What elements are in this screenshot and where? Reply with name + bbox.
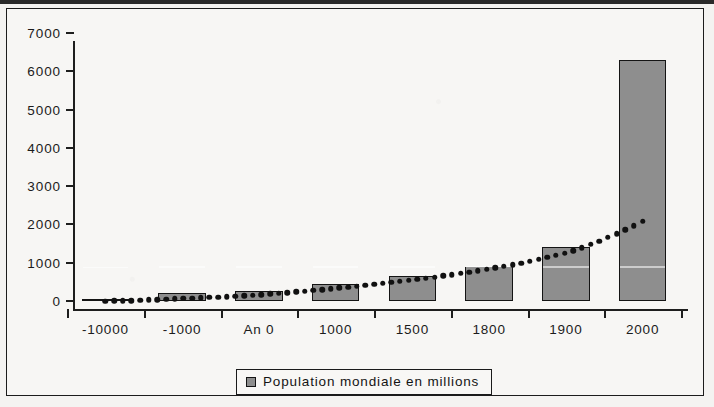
trendline-dot — [406, 278, 412, 284]
x-axis-tick-label: -10000 — [82, 322, 129, 337]
trendline-dot — [536, 257, 542, 263]
x-axis-tick — [451, 309, 453, 318]
chart-legend: Population mondiale en millions — [236, 369, 492, 395]
y-axis-tick — [66, 70, 74, 72]
trendline-dot — [510, 262, 516, 268]
trendline-dot — [224, 294, 230, 300]
trendline-dot — [181, 296, 187, 302]
trendline-dot — [207, 295, 213, 301]
y-axis-tick-label: 7000 — [3, 26, 61, 41]
y-axis-tick — [66, 262, 74, 264]
y-axis-tick-label: 2000 — [3, 217, 61, 232]
trendline-dot — [605, 235, 611, 241]
trendline-dot — [319, 287, 325, 293]
trendline-dot — [155, 297, 161, 303]
plot-area — [73, 41, 687, 309]
trendline-dot — [519, 260, 525, 266]
x-axis-tick-label: 1000 — [319, 322, 352, 337]
x-axis-line — [73, 309, 688, 311]
trendline-dot — [337, 285, 343, 291]
trendline-dot — [129, 298, 135, 304]
trendline-dot — [562, 251, 568, 257]
x-axis-tick-label: 1900 — [549, 322, 582, 337]
trendline-dot — [111, 298, 117, 304]
trendline-dot — [458, 271, 464, 277]
legend-swatch-icon — [246, 377, 256, 387]
trendline-dot — [198, 295, 204, 301]
page-top-rule — [0, 0, 714, 4]
trendline-dot — [371, 282, 377, 288]
y-axis-tick — [66, 300, 74, 302]
trendline-dot — [423, 275, 429, 281]
trendline-dot — [293, 289, 299, 295]
trendline-dot — [241, 293, 247, 299]
trendline-dot — [103, 298, 109, 304]
bar — [619, 60, 667, 301]
trendline-dot — [545, 255, 551, 261]
trendline-dot — [527, 259, 533, 265]
trendline-dot — [397, 279, 403, 285]
trendline-dot — [259, 292, 265, 298]
x-axis-tick — [604, 309, 606, 318]
trendline-dot — [631, 223, 637, 229]
trendline-dot — [363, 283, 369, 289]
x-axis-tick — [374, 309, 376, 318]
y-axis-tick-label: 5000 — [3, 102, 61, 117]
trendline-dot — [345, 284, 351, 290]
trendline-dot — [328, 286, 334, 292]
trendline-dot — [588, 242, 594, 248]
trendline-dot — [311, 288, 317, 294]
y-axis-tick — [66, 109, 74, 111]
trendline-dot — [467, 269, 473, 275]
chart-frame: 01000200030004000500060007000 -10000-100… — [6, 8, 704, 396]
y-axis-tick-label: 1000 — [3, 255, 61, 270]
trendline-dot — [475, 268, 481, 274]
bar — [312, 284, 360, 301]
trendline-dot — [640, 218, 646, 224]
y-axis-tick-label: 3000 — [3, 179, 61, 194]
x-axis-tick — [528, 309, 530, 318]
x-axis-tick — [221, 309, 223, 318]
x-axis-tick-label: -1000 — [163, 322, 202, 337]
x-axis-tick-label: An 0 — [243, 322, 274, 337]
y-axis-tick-label: 0 — [3, 294, 61, 309]
trendline-dot — [250, 292, 256, 298]
y-axis-tick — [66, 147, 74, 149]
trendline-dot — [449, 272, 455, 278]
trendline-dot — [501, 264, 507, 270]
trendline-dot — [597, 238, 603, 244]
trendline-dot — [614, 231, 620, 237]
trendline-dot — [189, 295, 195, 301]
x-axis-tick-label: 1800 — [473, 322, 506, 337]
y-axis-line — [73, 41, 75, 311]
trendline-dot — [276, 291, 282, 297]
trendline-dot — [120, 298, 126, 304]
x-axis-tick — [67, 309, 69, 318]
trendline-dot — [484, 267, 490, 273]
trendline-dot — [493, 265, 499, 271]
trendline-dot — [571, 248, 577, 254]
y-axis-tick — [66, 185, 74, 187]
y-axis-tick-label: 4000 — [3, 140, 61, 155]
trendline-dot — [137, 297, 143, 303]
trendline-dot — [215, 294, 221, 300]
trendline-dot — [415, 276, 421, 282]
y-axis-tick — [66, 32, 74, 34]
x-axis-tick — [297, 309, 299, 318]
trendline-dot — [579, 245, 585, 251]
x-axis-tick — [681, 309, 683, 318]
trendline-dot — [389, 280, 395, 286]
trendline-dot — [172, 296, 178, 302]
trendline-dot — [623, 227, 629, 233]
x-axis-tick — [144, 309, 146, 318]
x-axis-tick-label: 2000 — [626, 322, 659, 337]
trendline-dot — [146, 297, 152, 303]
trendline-dot — [285, 290, 291, 296]
legend-label: Population mondiale en millions — [263, 374, 479, 389]
trendline-dot — [553, 253, 559, 259]
trendline-dot — [163, 297, 169, 303]
y-axis-tick-label: 6000 — [3, 64, 61, 79]
y-axis-tick — [66, 223, 74, 225]
trendline-dot — [233, 293, 239, 299]
x-axis-tick-label: 1500 — [396, 322, 429, 337]
